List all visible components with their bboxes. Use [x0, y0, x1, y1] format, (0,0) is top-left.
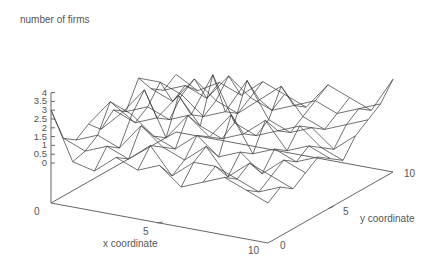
y-tick-10: 10	[404, 168, 415, 179]
surface-plot	[0, 0, 434, 266]
axes	[51, 93, 393, 243]
z-tick-4: 4	[23, 87, 47, 98]
y-tick-0: 0	[280, 240, 286, 251]
x-tick-10: 10	[248, 245, 259, 256]
y-tick-5: 5	[343, 206, 349, 217]
x-axis-label: x coordinate	[103, 238, 157, 249]
z-axis-label: number of firms	[20, 14, 89, 25]
x-tick-0: 0	[34, 206, 40, 217]
y-axis-label: y coordinate	[360, 213, 414, 224]
x-tick-5: 5	[143, 226, 149, 237]
wireframe-mesh	[51, 74, 393, 203]
